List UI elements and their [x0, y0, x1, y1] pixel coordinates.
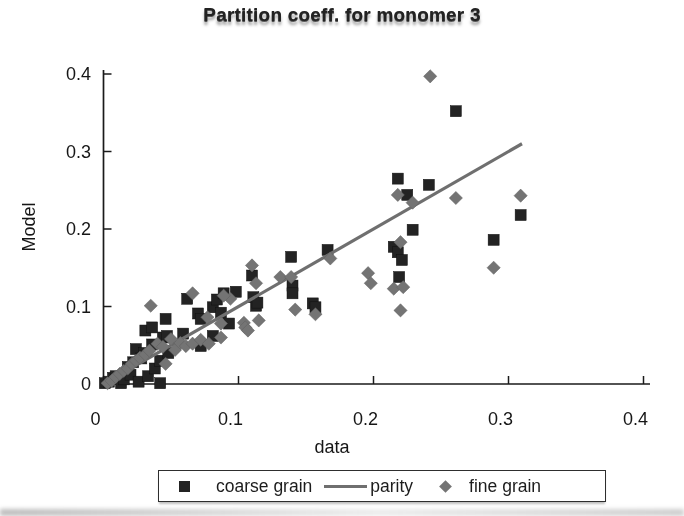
- legend-label-fine-grain: fine grain: [469, 476, 541, 497]
- scatter-point-fine-grain: [289, 303, 302, 316]
- scatter-point-coarse-grain: [147, 322, 158, 333]
- scatter-point-coarse-grain: [287, 288, 298, 299]
- scatter-point-coarse-grain: [407, 224, 418, 235]
- scatter-point-fine-grain: [487, 261, 500, 274]
- x-tick-label: 0.2: [353, 409, 378, 429]
- scatter-point-fine-grain: [424, 70, 437, 83]
- scatter-point-coarse-grain: [450, 106, 461, 117]
- y-tick-label: 0: [81, 374, 91, 394]
- y-tick-label: 0.2: [66, 219, 91, 239]
- x-axis-title: data: [314, 437, 350, 457]
- x-tick-label: 0.1: [218, 409, 243, 429]
- legend-item-fine-grain: fine grain: [441, 476, 541, 497]
- scatter-point-fine-grain: [252, 314, 265, 327]
- y-tick-label: 0.1: [66, 297, 91, 317]
- y-axis-title: Model: [19, 202, 39, 251]
- scatter-point-fine-grain: [364, 277, 377, 290]
- legend-item-parity: parity: [324, 476, 413, 497]
- x-tick-label: 0.3: [488, 409, 513, 429]
- scatter-point-fine-grain: [394, 304, 407, 317]
- scatter-point-fine-grain: [144, 299, 157, 312]
- diamond-marker-icon: [439, 480, 452, 493]
- scatter-point-fine-grain: [362, 267, 375, 280]
- scatter-point-coarse-grain: [488, 234, 499, 245]
- legend-item-coarse-grain: coarse grain: [179, 476, 312, 497]
- figure: Partition coeff. for monomer 3 00.10.20.…: [0, 0, 684, 516]
- square-marker-icon: [179, 481, 190, 492]
- legend-label-parity: parity: [370, 476, 413, 497]
- scatter-point-fine-grain: [449, 191, 462, 204]
- x-tick-label: 0: [90, 409, 100, 429]
- scatter-point-coarse-grain: [160, 313, 171, 324]
- scatter-point-coarse-grain: [286, 251, 297, 262]
- plot-area: 00.10.20.30.400.10.20.30.4dataModel: [0, 0, 684, 516]
- scan-edge-artifact: [0, 509, 684, 516]
- scatter-point-coarse-grain: [392, 173, 403, 184]
- scatter-point-coarse-grain: [515, 210, 526, 221]
- line-marker-icon: [324, 485, 367, 488]
- scatter-point-fine-grain: [514, 189, 527, 202]
- legend: coarse grain parity fine grain: [158, 470, 606, 502]
- y-tick-label: 0.3: [66, 142, 91, 162]
- x-tick-label: 0.4: [623, 409, 648, 429]
- scatter-point-coarse-grain: [423, 179, 434, 190]
- legend-label-coarse-grain: coarse grain: [216, 476, 312, 497]
- scatter-point-coarse-grain: [396, 255, 407, 266]
- y-tick-label: 0.4: [66, 64, 91, 84]
- scatter-point-coarse-grain: [155, 378, 166, 389]
